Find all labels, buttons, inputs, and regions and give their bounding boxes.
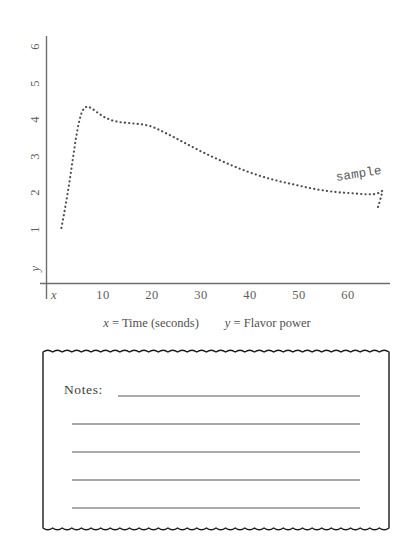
y-tick-label-1: 1 bbox=[28, 219, 43, 241]
y-tick-label-5: 5 bbox=[28, 73, 43, 95]
notes-label: Notes: bbox=[64, 382, 103, 398]
x-tick-label-60: 60 bbox=[333, 288, 363, 303]
series-sample-line bbox=[61, 106, 382, 228]
flavor-power-chart: sample 6 5 4 3 2 1 y x 10 20 30 40 50 60 bbox=[0, 0, 414, 310]
chart-caption: x = Time (seconds)y = Flavor power bbox=[0, 316, 414, 331]
x-tick-label-10: 10 bbox=[88, 288, 118, 303]
y-tick-label-6: 6 bbox=[28, 36, 43, 58]
x-axis-symbol: x bbox=[39, 288, 69, 303]
notes-card-border bbox=[43, 350, 389, 529]
x-tick-label-20: 20 bbox=[137, 288, 167, 303]
caption-y-text: = Flavor power bbox=[230, 316, 310, 330]
caption-x-text: = Time (seconds) bbox=[109, 316, 199, 330]
notes-rule-lines bbox=[72, 396, 360, 508]
page-root: sample 6 5 4 3 2 1 y x 10 20 30 40 50 60… bbox=[0, 0, 414, 553]
y-tick-label-2: 2 bbox=[28, 182, 43, 204]
chart-canvas bbox=[0, 0, 414, 310]
x-tick-label-30: 30 bbox=[186, 288, 216, 303]
y-tick-label-4: 4 bbox=[28, 109, 43, 131]
y-axis-symbol: y bbox=[28, 258, 43, 280]
x-tick-label-50: 50 bbox=[284, 288, 314, 303]
x-tick-label-40: 40 bbox=[235, 288, 265, 303]
notes-card: Notes: bbox=[40, 344, 392, 536]
y-tick-label-3: 3 bbox=[28, 146, 43, 168]
notes-card-frame bbox=[40, 344, 392, 536]
